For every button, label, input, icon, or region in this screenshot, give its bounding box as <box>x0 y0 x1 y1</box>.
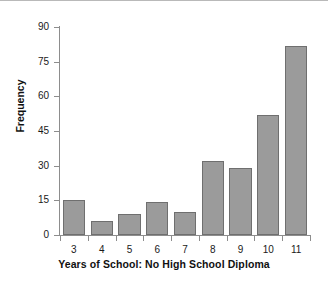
x-axis-title: Years of School: No High School Diploma <box>0 258 328 270</box>
top-border-rule <box>0 0 328 1</box>
x-axis-tick-label: 11 <box>291 244 301 255</box>
x-axis-tick <box>88 236 89 241</box>
y-axis-tick <box>54 96 59 97</box>
y-axis-tick-label: 30 <box>38 161 49 171</box>
bar <box>257 115 279 235</box>
bar <box>118 214 140 235</box>
y-axis-tick-label: 0 <box>43 230 49 240</box>
x-axis-tick-label: 5 <box>127 244 133 255</box>
x-axis-tick <box>171 236 172 241</box>
bar <box>91 221 113 235</box>
x-axis-tick-label: 6 <box>154 244 160 255</box>
x-axis-line <box>59 235 311 236</box>
x-axis-tick <box>199 236 200 241</box>
y-axis-tick-label: 60 <box>38 91 49 101</box>
y-axis-tick <box>54 200 59 201</box>
x-axis-tick-label: 8 <box>210 244 216 255</box>
x-axis-tick <box>116 236 117 241</box>
x-axis-tick-label: 4 <box>99 244 105 255</box>
y-axis-tick-label: 45 <box>38 126 49 136</box>
bar <box>229 168 251 235</box>
x-axis-tick-label: 3 <box>71 244 77 255</box>
bar-chart-figure: 0153045607590 34567891011 Frequency Year… <box>0 0 328 283</box>
y-axis-tick-label: 75 <box>38 57 49 67</box>
x-axis-tick-label: 9 <box>238 244 244 255</box>
bar <box>202 161 224 235</box>
x-axis-tick <box>60 236 61 241</box>
y-axis-tick <box>54 166 59 167</box>
x-axis-tick <box>282 236 283 241</box>
y-axis-tick-label: 90 <box>38 22 49 32</box>
plot-area <box>60 27 310 235</box>
bar <box>174 212 196 235</box>
y-axis-tick <box>54 27 59 28</box>
bar <box>285 46 307 236</box>
y-axis-tick <box>54 62 59 63</box>
bar <box>63 200 85 235</box>
y-axis-tick <box>54 235 59 236</box>
x-axis-tick <box>254 236 255 241</box>
bar <box>146 202 168 236</box>
y-axis-tick-label: 15 <box>38 195 49 205</box>
x-axis-tick-label: 10 <box>263 244 274 255</box>
x-axis-tick-label: 7 <box>182 244 188 255</box>
y-axis-tick <box>54 131 59 132</box>
y-axis-title: Frequency <box>14 66 26 146</box>
x-axis-tick <box>310 236 311 241</box>
x-axis-tick <box>227 236 228 241</box>
x-axis-tick <box>143 236 144 241</box>
